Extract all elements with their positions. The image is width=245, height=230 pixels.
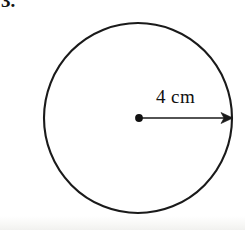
figure-page: 3. 4 cm [0, 0, 245, 230]
circle-diagram [0, 0, 245, 230]
center-point-dot [135, 114, 143, 122]
radius-label: 4 cm [156, 86, 195, 108]
